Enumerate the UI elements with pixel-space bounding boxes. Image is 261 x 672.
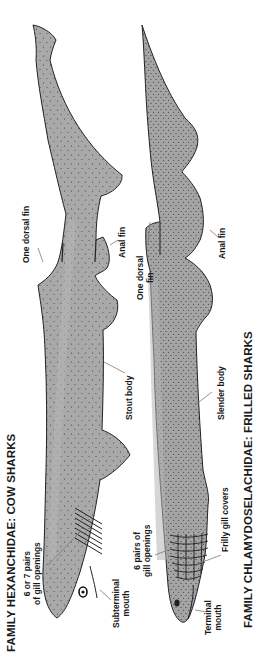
cow-shark-body: [33, 25, 130, 618]
cow-shark-mouth-label: Subterminal mouth: [112, 579, 132, 628]
cow-shark-body-label: Stout body: [125, 376, 135, 420]
cow-shark-mouth: [90, 566, 97, 598]
frilled-shark-eye: [174, 599, 179, 606]
cow-shark-gill-label: 6 or 7 pairs of gill openings: [23, 542, 43, 605]
frilled-shark-family-title: FAMILY CHLAMYDOSELACHIDAE: FRILLED SHARK…: [242, 331, 255, 628]
frilled-shark-body-label: Slender body: [217, 366, 227, 420]
frilled-shark-dorsal-label: One dorsal fin: [136, 256, 156, 300]
frilled-shark-gill-label: 6 pairs of gill openings: [133, 525, 153, 577]
frilled-shark-drawing: [142, 25, 212, 622]
frilled-shark-anal-label: Anal fin: [218, 228, 228, 259]
cow-shark-family-title: FAMILY HEXANCHIDAE: COW SHARKS: [5, 434, 18, 652]
cow-shark-anal-label: Anal fin: [118, 227, 128, 258]
frilled-shark-mouth-label: Terminal mouth: [204, 600, 224, 635]
frilled-shark-frill-label: Frilly gill covers: [221, 487, 231, 552]
cow-shark-drawing: [33, 25, 130, 618]
cow-shark-dorsal-label: One dorsal fin: [22, 206, 32, 263]
